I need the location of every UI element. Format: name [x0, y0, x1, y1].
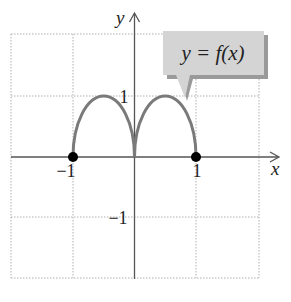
y-tick-1: 1 — [120, 87, 129, 107]
callout-label: y = f(x) — [179, 41, 244, 65]
y-axis-label: y — [114, 7, 125, 28]
x-axis-label: x — [270, 158, 280, 179]
x-tick-neg1: −1 — [56, 161, 75, 181]
y-tick-neg1: −1 — [108, 208, 127, 228]
callout: y = f(x) — [163, 31, 268, 101]
function-graph: y = f(x) y x −1 1 1 −1 — [0, 0, 291, 302]
x-tick-1: 1 — [193, 161, 202, 181]
